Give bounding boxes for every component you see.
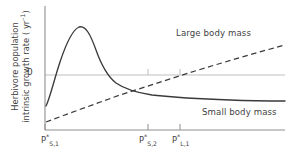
annotation-small-body-mass: Small body mass	[202, 107, 277, 117]
series-small-body-mass-line	[46, 27, 285, 106]
chart-plot	[0, 0, 300, 154]
x-tick-label-2: P*L,1	[172, 135, 189, 145]
x-tick-label-1: P*S,2	[139, 135, 157, 145]
figure-container: Herbivore population intrinsic growth ra…	[0, 0, 300, 154]
x-tick-label-0: P*S,1	[41, 135, 59, 145]
x-tick-label-1-sub: S,2	[147, 140, 157, 147]
x-tick-label-2-sub: L,1	[180, 140, 189, 147]
y-tick-label-zero: 0	[27, 67, 33, 77]
x-tick-label-0-sub: S,1	[49, 140, 59, 147]
annotation-large-body-mass: Large body mass	[176, 28, 251, 38]
